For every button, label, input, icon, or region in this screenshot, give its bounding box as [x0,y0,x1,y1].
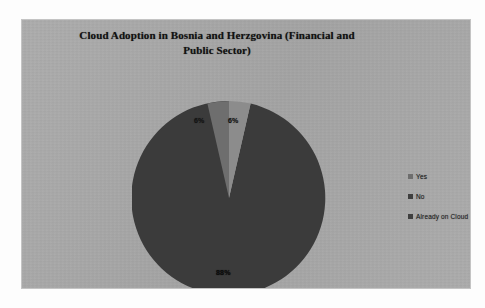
legend-label-already-on-cloud: Already on Cloud [416,213,468,220]
chart-title: Cloud Adoption in Bosnia and Herzgovina … [52,28,382,58]
legend-item-already-on-cloud[interactable]: Already on Cloud [408,212,470,221]
legend-swatch-icon-already-on-cloud [408,214,413,219]
pie-label-already-on-cloud: 88% [216,269,231,276]
legend-label-yes: Yes [416,173,427,180]
legend-item-no[interactable]: No [408,192,470,201]
chart-title-line-1: Cloud Adoption in Bosnia and Herzgovina … [79,29,354,41]
screenshot-root: Cloud Adoption in Bosnia and Herzgovina … [0,0,485,308]
chart-legend: Yes No Already on Cloud [408,172,470,232]
legend-label-no: No [416,193,425,200]
legend-swatch-icon-no [408,194,413,199]
pie-label-yes: 6% [194,117,205,124]
legend-swatch-icon-yes [408,174,413,179]
pie-chart: 6% 6% 88% [132,101,326,288]
legend-item-yes[interactable]: Yes [408,172,470,181]
pie-chart-svg [132,101,326,288]
chart-title-line-2: Public Sector) [183,44,251,56]
chart-panel: Cloud Adoption in Bosnia and Herzgovina … [22,20,470,288]
pie-label-no: 6% [228,117,239,124]
